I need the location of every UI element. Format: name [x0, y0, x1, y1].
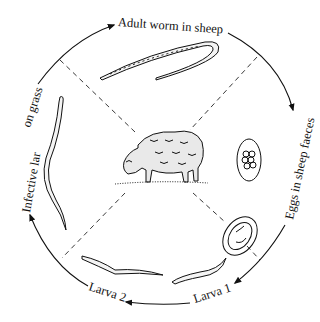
infective-larva-illustration — [44, 97, 66, 230]
adult-worm-illustration — [100, 42, 219, 80]
arrow-adult-to-eggs — [228, 33, 293, 110]
label-infective-part1: Infective lar — [19, 150, 43, 213]
larva1-illustration — [172, 258, 226, 284]
label-eggs: Eggs in sheep faeces — [282, 116, 317, 221]
life-cycle-diagram: Adult worm in sheep Eggs in sheep faeces… — [0, 0, 320, 322]
egg-larva-illustration — [216, 210, 265, 262]
arrow-eggs-to-larva1 — [235, 225, 285, 283]
larva2-illustration — [82, 256, 163, 275]
label-larva2: Larva 2 — [87, 280, 128, 305]
arrow-larva2-to-infective — [30, 215, 88, 286]
label-infective-part2: on grass — [20, 85, 46, 129]
sheep-illustration — [115, 131, 208, 184]
arrow-larva1-to-larva2 — [126, 302, 190, 304]
label-larva1: Larva 1 — [192, 281, 233, 306]
egg-cluster-illustration — [237, 139, 261, 181]
label-adult-worm: Adult worm in sheep — [118, 15, 224, 36]
